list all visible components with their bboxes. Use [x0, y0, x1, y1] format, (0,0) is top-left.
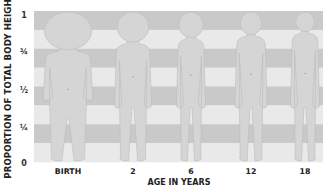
head-silhouette — [240, 12, 262, 35]
x-label-2: 2 — [130, 167, 135, 176]
navel-mark — [250, 74, 252, 76]
navel-mark — [67, 89, 69, 91]
x-label-12: 12 — [246, 167, 257, 176]
x-label-6: 6 — [188, 167, 193, 176]
head-silhouette — [296, 12, 315, 32]
y-axis-title: PROPORTION OF TOTAL BODY HEIGHT — [3, 0, 13, 179]
body-proportion-diagram — [0, 0, 334, 192]
x-axis-title: AGE IN YEARS — [148, 178, 211, 187]
head-silhouette — [179, 12, 203, 38]
navel-mark — [190, 75, 192, 77]
y-tick-three-quarters: ¾ — [20, 48, 28, 57]
head-silhouette — [44, 12, 91, 50]
head-silhouette — [117, 12, 149, 42]
x-label-birth: BIRTH — [55, 167, 81, 176]
x-label-18: 18 — [300, 167, 311, 176]
y-tick-0: 0 — [21, 159, 27, 168]
y-tick-half: ½ — [20, 86, 28, 95]
navel-mark — [132, 76, 134, 78]
navel-mark — [304, 73, 306, 75]
y-tick-1: 1 — [21, 11, 27, 20]
y-tick-quarter: ¼ — [20, 124, 28, 133]
